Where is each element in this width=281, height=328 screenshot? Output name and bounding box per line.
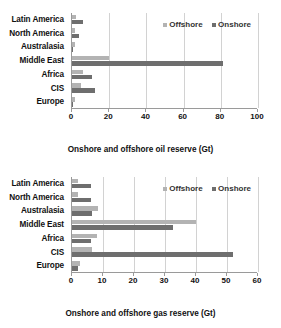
bar-group (72, 204, 257, 218)
bar-onshore (72, 211, 92, 216)
x-tick-label: 60 (253, 276, 262, 285)
bar-onshore (72, 252, 233, 257)
bar-offshore (72, 97, 75, 102)
legend-item-offshore[interactable]: Offshore (163, 20, 203, 29)
x-tick-label: 0 (69, 112, 73, 121)
bar-onshore (72, 266, 78, 271)
legend-item-onshore[interactable]: Onshore (212, 184, 251, 193)
category-label: CIS (0, 246, 68, 260)
bar-onshore (72, 20, 83, 25)
bar-onshore (72, 88, 95, 93)
bar-onshore (72, 75, 92, 80)
x-tick-mark (133, 273, 134, 276)
legend-swatch-icon (163, 23, 167, 27)
x-tick-mark (226, 273, 227, 276)
x-tick-mark (220, 109, 221, 112)
bar-offshore (72, 83, 81, 88)
bar-offshore (72, 247, 92, 252)
gas-category-axis: Latin AmericaNorth AmericaAustralasiaMid… (0, 177, 68, 273)
x-tick-label: 10 (98, 276, 107, 285)
legend-item-offshore[interactable]: Offshore (163, 184, 203, 193)
bar-group (72, 218, 257, 232)
oil-x-tick-labels: 020406080100 (71, 112, 257, 124)
bar-onshore (72, 198, 91, 203)
x-tick-mark (183, 109, 184, 112)
category-label: Middle East (0, 218, 68, 232)
category-label: Europe (0, 259, 68, 273)
bar-offshore (72, 261, 80, 266)
bar-offshore (72, 234, 97, 239)
legend-item-onshore[interactable]: Onshore (212, 20, 251, 29)
x-tick-label: 30 (160, 276, 169, 285)
legend-swatch-icon (163, 187, 167, 191)
bar-offshore (72, 28, 75, 33)
x-tick-label: 40 (141, 112, 150, 121)
bar-onshore (72, 102, 73, 107)
legend-label: Offshore (169, 184, 202, 193)
bar-group (72, 232, 257, 246)
category-label: Middle East (0, 54, 68, 68)
bar-group (72, 259, 257, 273)
x-tick-mark (145, 109, 146, 112)
bar-onshore (72, 61, 223, 66)
category-label: Europe (0, 95, 68, 109)
category-label: North America (0, 191, 68, 205)
x-tick-mark (102, 273, 103, 276)
bar-offshore (72, 15, 76, 20)
bar-offshore (72, 70, 83, 75)
legend-label: Offshore (169, 20, 202, 29)
legend-label: Onshore (218, 184, 251, 193)
category-label: Australasia (0, 204, 68, 218)
gridline (258, 177, 259, 272)
bar-offshore (72, 56, 109, 61)
legend-swatch-icon (212, 187, 216, 191)
x-tick-label: 60 (178, 112, 187, 121)
category-label: Latin America (0, 13, 68, 27)
bar-offshore (72, 220, 196, 225)
category-label: Africa (0, 232, 68, 246)
category-label: Latin America (0, 177, 68, 191)
x-tick-mark (164, 273, 165, 276)
category-label: Africa (0, 68, 68, 82)
charts-page: Latin AmericaNorth AmericaAustralasiaMid… (0, 0, 281, 328)
x-tick-label: 40 (191, 276, 200, 285)
bar-offshore (72, 179, 78, 184)
bar-offshore (72, 42, 75, 47)
legend-label: Onshore (218, 20, 251, 29)
bar-offshore (72, 206, 98, 211)
bar-group (72, 40, 257, 54)
x-tick-label: 100 (250, 112, 263, 121)
oil-legend: OffshoreOnshore (163, 20, 251, 29)
bar-offshore (72, 192, 78, 197)
x-tick-label: 20 (104, 112, 113, 121)
category-label: North America (0, 27, 68, 41)
bar-onshore (72, 184, 91, 189)
oil-x-axis-title: Onshore and offshore oil reserve (Gt) (0, 145, 281, 154)
x-tick-label: 0 (69, 276, 73, 285)
bar-group (72, 68, 257, 82)
bar-onshore (72, 239, 91, 244)
bar-group (72, 82, 257, 96)
bar-group (72, 95, 257, 109)
bar-group (72, 246, 257, 260)
x-tick-mark (71, 109, 72, 112)
oil-category-axis: Latin AmericaNorth AmericaAustralasiaMid… (0, 13, 68, 109)
bar-onshore (72, 34, 79, 39)
x-tick-mark (108, 109, 109, 112)
bar-onshore (72, 225, 173, 230)
category-label: Australasia (0, 40, 68, 54)
x-tick-label: 20 (129, 276, 138, 285)
x-tick-mark (71, 273, 72, 276)
oil-reserve-chart: Latin AmericaNorth AmericaAustralasiaMid… (0, 0, 281, 164)
gas-reserve-chart: Latin AmericaNorth AmericaAustralasiaMid… (0, 164, 281, 328)
bar-group (72, 54, 257, 68)
legend-swatch-icon (212, 23, 216, 27)
gas-x-axis-title: Onshore and offshore gas reserve (Gt) (0, 309, 281, 318)
gas-legend: OffshoreOnshore (163, 184, 251, 193)
x-tick-mark (195, 273, 196, 276)
gridline (258, 13, 259, 108)
bar-onshore (72, 47, 73, 52)
gas-x-tick-labels: 0102030405060 (71, 276, 257, 288)
category-label: CIS (0, 82, 68, 96)
x-tick-mark (257, 273, 258, 276)
